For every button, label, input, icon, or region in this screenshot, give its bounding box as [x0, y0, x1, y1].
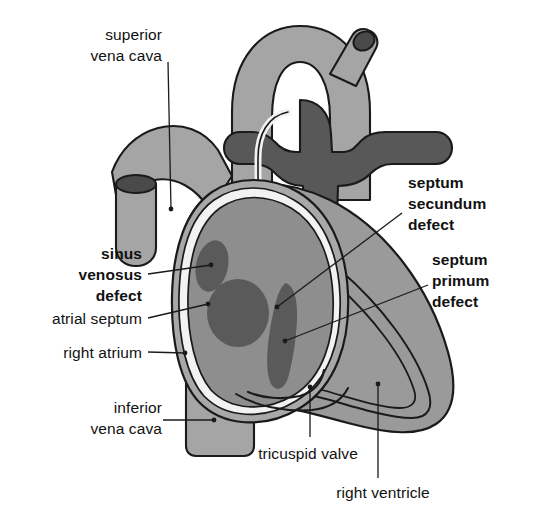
label-sinus-venosus-defect-line-0: sinus — [24, 243, 142, 264]
leader-dot-septum-secundum-defect — [275, 305, 280, 310]
label-superior-vena-cava-line-0: superior — [40, 24, 162, 45]
label-sinus-venosus-defect-line-1: venosus — [24, 264, 142, 285]
label-superior-vena-cava-line-1: vena cava — [40, 45, 162, 66]
leader-dot-right-atrium — [183, 351, 188, 356]
label-inferior-vena-cava: inferiorvena cava — [40, 397, 162, 439]
svc-lumen — [116, 175, 156, 193]
septum-secundum-defect-shape — [207, 279, 269, 347]
leader-dot-atrial-septum — [206, 302, 211, 307]
leader-dot-superior-vena-cava — [169, 207, 174, 212]
label-inferior-vena-cava-line-0: inferior — [40, 397, 162, 418]
label-right-atrium-line-0: right atrium — [20, 342, 142, 363]
label-atrial-septum-line-0: atrial septum — [16, 308, 142, 329]
label-sinus-venosus-defect: sinusvenosusdefect — [24, 243, 142, 306]
leader-dot-right-ventricle — [376, 382, 381, 387]
label-right-atrium: right atrium — [20, 342, 142, 363]
label-septum-secundum-defect-line-2: defect — [408, 214, 526, 235]
label-atrial-septum: atrial septum — [16, 308, 142, 329]
label-septum-primum-defect-line-0: septum — [432, 249, 532, 270]
label-septum-primum-defect-line-1: primum — [432, 270, 532, 291]
leader-dot-inferior-vena-cava — [212, 418, 217, 423]
label-superior-vena-cava: superiorvena cava — [40, 24, 162, 66]
label-sinus-venosus-defect-line-2: defect — [24, 285, 142, 306]
label-septum-secundum-defect-line-0: septum — [408, 172, 526, 193]
label-septum-secundum-defect: septumsecundumdefect — [408, 172, 526, 235]
label-septum-secundum-defect-line-1: secundum — [408, 193, 526, 214]
label-tricuspid-valve: tricuspid valve — [246, 443, 370, 464]
label-septum-primum-defect-line-2: defect — [432, 291, 532, 312]
leader-dot-tricuspid-valve — [308, 385, 313, 390]
leader-dot-sinus-venosus-defect — [209, 263, 214, 268]
label-septum-primum-defect: septumprimumdefect — [432, 249, 532, 312]
leader-dot-septum-primum-defect — [283, 339, 288, 344]
label-inferior-vena-cava-line-1: vena cava — [40, 418, 162, 439]
label-right-ventricle: right ventricle — [320, 482, 446, 503]
label-right-ventricle-line-0: right ventricle — [320, 482, 446, 503]
label-tricuspid-valve-line-0: tricuspid valve — [246, 443, 370, 464]
